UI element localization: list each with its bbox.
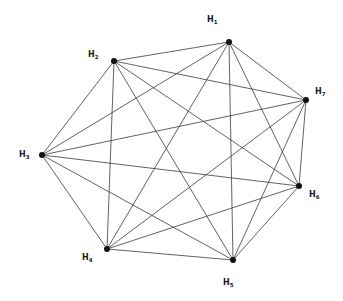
node-label-h4: H4 xyxy=(82,254,93,264)
edge-h1-h4 xyxy=(107,42,229,249)
node-h4 xyxy=(104,246,110,252)
label-subscript: 2 xyxy=(95,54,99,60)
node-label-h7: H7 xyxy=(315,88,326,98)
graph-canvas xyxy=(0,0,343,301)
node-label-h3: H3 xyxy=(19,151,30,161)
node-h5 xyxy=(230,257,236,263)
label-subscript: 3 xyxy=(26,154,30,160)
node-label-h1: H1 xyxy=(207,16,218,26)
label-letter: H xyxy=(88,50,95,59)
node-label-h2: H2 xyxy=(88,51,99,61)
edge-h4-h7 xyxy=(107,100,306,249)
label-letter: H xyxy=(19,150,26,159)
label-subscript: 1 xyxy=(214,19,218,25)
label-letter: H xyxy=(207,15,214,24)
edge-h4-h5 xyxy=(107,249,233,260)
edge-h1-h5 xyxy=(229,42,233,260)
edge-h4-h6 xyxy=(107,186,299,249)
node-label-h6: H6 xyxy=(309,191,320,201)
label-letter: H xyxy=(223,278,230,287)
node-h1 xyxy=(226,39,232,45)
edge-h2-h4 xyxy=(107,61,114,249)
label-subscript: 6 xyxy=(316,194,320,200)
label-letter: H xyxy=(82,253,89,262)
label-subscript: 7 xyxy=(322,91,326,97)
edge-h3-h7 xyxy=(42,100,306,155)
label-subscript: 5 xyxy=(230,282,234,288)
edge-h3-h4 xyxy=(42,155,107,249)
label-subscript: 4 xyxy=(89,257,93,263)
node-h2 xyxy=(111,58,117,64)
edge-h5-h7 xyxy=(233,100,306,260)
edge-h1-h3 xyxy=(42,42,229,155)
node-h6 xyxy=(296,183,302,189)
edge-h3-h5 xyxy=(42,155,233,260)
node-label-h5: H5 xyxy=(223,279,234,289)
graph-nodes xyxy=(39,39,309,263)
edge-h2-h3 xyxy=(42,61,114,155)
node-h3 xyxy=(39,152,45,158)
edge-h1-h7 xyxy=(229,42,306,100)
edge-h1-h2 xyxy=(114,42,229,61)
label-letter: H xyxy=(309,190,316,199)
label-letter: H xyxy=(315,87,322,96)
graph-edges xyxy=(42,42,306,260)
node-h7 xyxy=(303,97,309,103)
